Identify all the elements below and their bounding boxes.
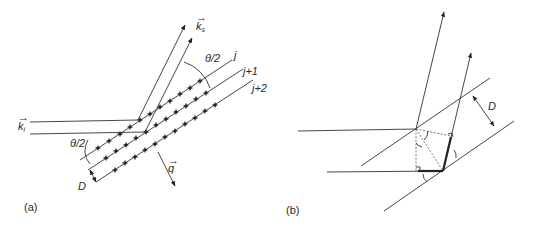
atoms-plane-j	[95, 78, 203, 151]
panel-a-label: (a)	[24, 201, 37, 213]
svg-text:→: →	[18, 111, 29, 123]
angle-arc-top	[184, 62, 210, 88]
theta-half-top-label: θ/2	[205, 52, 220, 64]
angle-arc-3	[454, 150, 456, 158]
d-label-a: D	[78, 180, 86, 192]
diagonal	[416, 129, 443, 171]
incident-ray-1	[30, 120, 138, 122]
svg-text:→: →	[168, 154, 179, 166]
d-spacing-arrow	[90, 170, 96, 182]
svg-text:→: →	[196, 11, 207, 23]
incident-ray-2	[30, 132, 145, 134]
right-angle-mark-2	[448, 133, 453, 137]
panel-a: ki → ks → q → θ/2 θ/2 j j+1 j+2 D (a)	[18, 11, 267, 213]
plane-label-j-plus-2: j+2	[250, 82, 267, 94]
angle-arc-1	[424, 131, 428, 140]
plane-label-j-plus-1: j+1	[241, 65, 258, 77]
angle-arc-2	[416, 143, 422, 147]
plane-label-j: j	[232, 49, 237, 61]
theta-half-left-label: θ/2	[70, 137, 85, 149]
incident-ray-1	[298, 129, 416, 131]
scattered-ray-1	[138, 25, 185, 120]
angle-arc-left	[85, 140, 90, 164]
panel-b: D (b)	[286, 12, 514, 216]
bragg-diagram: ki → ks → q → θ/2 θ/2 j j+1 j+2 D (a)	[0, 0, 535, 228]
scattered-ray-1	[416, 12, 444, 129]
d-label-b: D	[488, 100, 496, 112]
angle-arc-4	[423, 174, 427, 182]
plane-lower	[384, 121, 514, 211]
panel-b-label: (b)	[286, 204, 299, 216]
perpendicular-to-scattered	[416, 129, 451, 136]
